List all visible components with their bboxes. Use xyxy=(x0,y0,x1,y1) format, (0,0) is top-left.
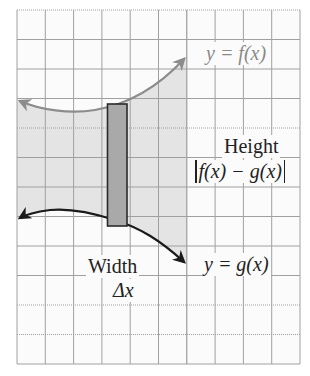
height-label: Height xyxy=(222,135,280,158)
g-curve-label: y = g(x) xyxy=(202,253,271,276)
area-between-curves-diagram: y = f(x) y = g(x) Height f(x) − g(x) Wid… xyxy=(0,0,310,376)
width-label: Width xyxy=(86,255,139,278)
height-expression-text: f(x) − g(x) xyxy=(199,160,282,182)
f-curve-label: y = f(x) xyxy=(204,42,268,65)
absolute-value-bar-left xyxy=(195,160,197,183)
absolute-value-bar-right xyxy=(284,160,286,183)
height-expression: f(x) − g(x) xyxy=(192,160,288,183)
width-expression: Δx xyxy=(111,279,136,302)
representative-rectangle xyxy=(108,104,128,226)
